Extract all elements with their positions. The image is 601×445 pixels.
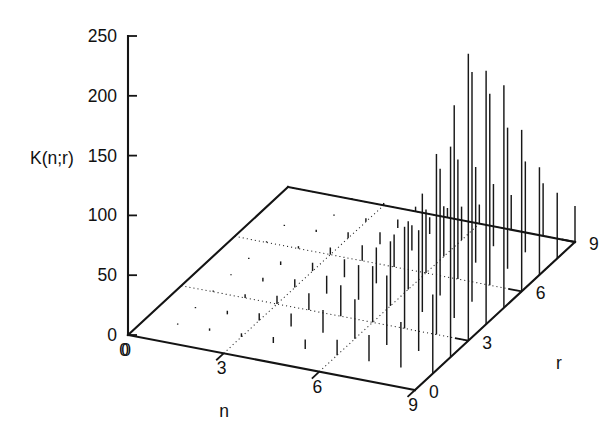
z-tick-label: 0 [107, 325, 117, 345]
z-tick-label: 200 [88, 86, 117, 106]
n-tick-label: 6 [312, 377, 322, 397]
z-tick-label: 100 [88, 205, 117, 225]
base-plane-gridlines [181, 187, 575, 390]
n-tick-label: 9 [408, 395, 418, 415]
r-tick-label: 3 [482, 333, 492, 353]
z-tick-label: 50 [98, 265, 118, 285]
stem-spikes [178, 54, 575, 374]
n-tick-label: 3 [217, 358, 227, 378]
r-tick-label: 9 [589, 234, 599, 254]
z-tick-label: 250 [88, 26, 117, 46]
zaxis-title: K(n;r) [30, 148, 74, 168]
plot-root: 050100150200250036903690 K(n;r) n r [0, 0, 601, 445]
z-tick-label: 150 [88, 146, 117, 166]
r-tick-label: 6 [536, 283, 546, 303]
yaxis-title: r [556, 353, 562, 373]
origin-label: 0 [119, 340, 129, 360]
three-d-stem-chart: 050100150200250036903690 K(n;r) n r [0, 0, 601, 445]
r-tick-label: 0 [429, 382, 439, 402]
xaxis-title: n [219, 401, 229, 421]
